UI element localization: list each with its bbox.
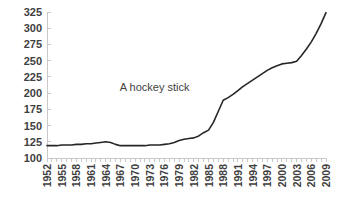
y-axis-tick-marks bbox=[47, 12, 51, 158]
y-axis-tick-label: 325 bbox=[24, 6, 42, 18]
y-axis-tick-label: 175 bbox=[24, 103, 42, 115]
y-axis-tick-label: 275 bbox=[24, 38, 42, 50]
x-axis-tick-label: 1997 bbox=[261, 164, 273, 188]
x-axis-tick-label: 1961 bbox=[85, 164, 97, 188]
y-axis-tick-label: 125 bbox=[24, 136, 42, 148]
y-axis-tick-label: 300 bbox=[24, 22, 42, 34]
x-axis-tick-label: 2000 bbox=[276, 164, 288, 188]
x-axis-tick-labels: 1952195519581961196419671970197319761979… bbox=[41, 164, 332, 188]
y-axis-tick-label: 250 bbox=[24, 55, 42, 67]
data-series-line bbox=[47, 13, 326, 146]
x-axis-tick-label: 1994 bbox=[247, 164, 259, 188]
x-axis-tick-label: 1973 bbox=[144, 164, 156, 188]
hockey-stick-chart: 100125150175200225250275300325 195219551… bbox=[0, 0, 338, 204]
x-axis-tick-label: 1988 bbox=[217, 164, 229, 188]
y-axis-tick-labels: 100125150175200225250275300325 bbox=[24, 6, 42, 164]
y-axis-tick-label: 225 bbox=[24, 71, 42, 83]
x-axis-tick-label: 1958 bbox=[70, 164, 82, 188]
x-axis-tick-label: 2006 bbox=[305, 164, 317, 188]
x-axis-tick-label: 1952 bbox=[41, 164, 53, 188]
x-axis-tick-label: 1982 bbox=[188, 164, 200, 188]
x-axis-tick-label: 1991 bbox=[232, 164, 244, 188]
x-axis-tick-marks bbox=[47, 158, 326, 162]
y-axis-tick-label: 100 bbox=[24, 152, 42, 164]
y-axis-tick-label: 200 bbox=[24, 87, 42, 99]
y-axis-tick-label: 150 bbox=[24, 120, 42, 132]
chart-annotation-label: A hockey stick bbox=[120, 81, 190, 93]
x-axis-tick-label: 1967 bbox=[114, 164, 126, 188]
x-axis-tick-label: 1955 bbox=[56, 164, 68, 188]
x-axis-tick-label: 2003 bbox=[291, 164, 303, 188]
x-axis-tick-label: 1979 bbox=[173, 164, 185, 188]
x-axis-tick-label: 1985 bbox=[203, 164, 215, 188]
chart-canvas: 100125150175200225250275300325 195219551… bbox=[0, 0, 338, 204]
chart-annotations: A hockey stick bbox=[120, 81, 190, 93]
x-axis-tick-label: 1964 bbox=[100, 164, 112, 188]
x-axis-tick-label: 1976 bbox=[158, 164, 170, 188]
x-axis-tick-label: 1970 bbox=[129, 164, 141, 188]
x-axis-tick-label: 2009 bbox=[320, 164, 332, 188]
